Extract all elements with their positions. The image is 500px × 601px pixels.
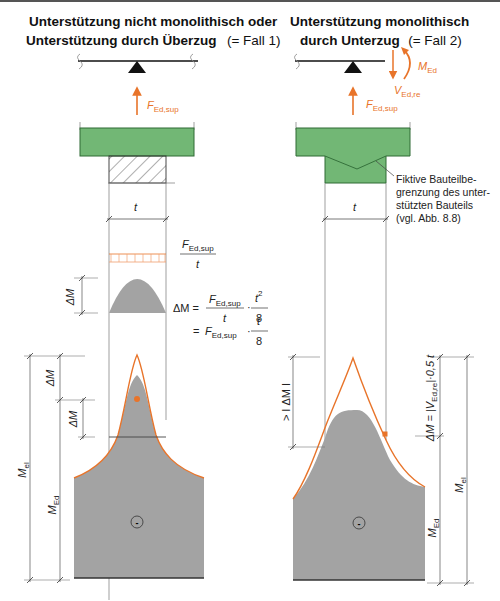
m-el-label-left: Mel xyxy=(16,462,31,478)
svg-text:FEd,sup: FEd,sup xyxy=(205,325,237,340)
face-moment-marker-icon xyxy=(383,432,388,437)
m-ed-label-left: MEd xyxy=(46,496,61,515)
svg-text:·: · xyxy=(247,301,251,313)
svg-text:stützten Bauteils: stützten Bauteils xyxy=(396,199,473,211)
right-title-line2: durch Unterzug (= Fall 2) xyxy=(300,31,462,48)
support-triangle-icon xyxy=(128,61,146,73)
svg-text:Fiktive Bauteilbe-: Fiktive Bauteilbe- xyxy=(396,173,477,185)
svg-text:t2: t2 xyxy=(255,289,263,304)
m-ed-label-right: MEd xyxy=(426,519,441,538)
moment-label: MEd xyxy=(418,60,437,75)
left-width-label: t xyxy=(134,201,138,213)
svg-text:t: t xyxy=(223,312,227,324)
negative-sign-text: - xyxy=(358,519,361,529)
svg-text:grenzung des unter-: grenzung des unter- xyxy=(396,186,490,198)
moment-area-left xyxy=(74,375,204,578)
load-fraction-denominator: t xyxy=(196,258,200,270)
slab-section xyxy=(80,128,194,156)
left-force-label: FEd,sup xyxy=(147,99,179,114)
peak-marker-icon xyxy=(134,396,140,402)
delta-m-formula: ΔM = FEd,sup t · t2 8 = FEd,sup · t 8 xyxy=(173,289,268,347)
support-triangle-icon xyxy=(344,61,362,73)
parabola-delta-m xyxy=(109,279,166,313)
load-fraction-numerator: FEd,sup xyxy=(182,238,214,253)
svg-text:(vgl. Abb. 8.8): (vgl. Abb. 8.8) xyxy=(396,212,461,224)
right-panel: Unterstützung monolithisch durch Unterzu… xyxy=(280,14,490,586)
svg-text:ΔM =: ΔM = xyxy=(173,302,199,314)
gt-delta-m-label: > I ΔM I xyxy=(280,383,292,421)
svg-text:·: · xyxy=(247,325,251,337)
m-el-label-right: Mel xyxy=(453,477,468,493)
negative-sign-text: - xyxy=(136,518,139,528)
left-panel: Unterstützung nicht monolithisch oder Un… xyxy=(16,14,281,600)
left-title-line2: Unterstützung durch Überzug (= Fall 1) xyxy=(26,31,281,48)
svg-text:8: 8 xyxy=(256,335,262,347)
right-force-label: FEd,sup xyxy=(366,98,398,113)
right-title-line1: Unterstützung monolithisch xyxy=(290,14,469,29)
svg-text:FEd,sup: FEd,sup xyxy=(209,293,241,308)
svg-text:=: = xyxy=(193,325,199,337)
moment-redistribution-diagram: Unterstützung nicht monolithisch oder Un… xyxy=(0,0,500,601)
support-wall-hatched xyxy=(109,156,166,183)
distributed-load xyxy=(109,254,166,262)
moment-area-right xyxy=(293,410,425,580)
delta-m-upper-label: ΔM xyxy=(44,369,56,387)
moment-arc-icon xyxy=(404,50,410,79)
left-beam-scheme xyxy=(78,54,199,73)
delta-m-lower-label: ΔM xyxy=(67,410,79,428)
parabola-delta-m-label: ΔM xyxy=(64,288,76,306)
shear-label: VEd,re xyxy=(394,84,421,99)
left-title-line1: Unterstützung nicht monolithisch oder xyxy=(29,14,278,29)
delta-m-formula-right: ΔM = |VEd,re|·0,5 t xyxy=(424,354,439,442)
fictive-boundary-note: Fiktive Bauteilbe- grenzung des unter- s… xyxy=(396,173,490,224)
right-width-label: t xyxy=(353,201,357,213)
